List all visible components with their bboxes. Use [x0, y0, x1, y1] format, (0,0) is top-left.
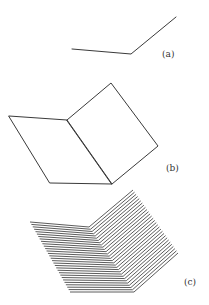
- hatch-line-right: [111, 220, 155, 258]
- hatch-line-right: [106, 214, 150, 252]
- hatch-line-right: [105, 212, 149, 250]
- hatch-line-right: [134, 253, 178, 292]
- hatch-line-left: [37, 234, 97, 238]
- panel-a-label: (a): [162, 49, 174, 59]
- hatch-line-left: [33, 227, 92, 232]
- hatch-line-left: [63, 280, 126, 281]
- hatch-line-left: [52, 261, 114, 263]
- panel-c-right-face-hatching: [89, 190, 178, 292]
- hatch-line-left: [66, 285, 129, 286]
- hatch-line-right: [122, 236, 166, 274]
- hatch-line-right: [132, 251, 176, 290]
- hatch-line-right: [100, 205, 144, 242]
- hatch-line-right: [103, 210, 147, 248]
- panel-b: (b): [9, 83, 179, 184]
- hatch-line-right: [117, 229, 161, 267]
- figure-canvas: (a) (b) (c): [0, 0, 209, 305]
- hatch-line-left: [53, 263, 115, 265]
- hatch-line-left: [34, 229, 94, 233]
- hatch-line-right: [101, 207, 145, 245]
- hatch-line-right: [128, 244, 172, 283]
- hatch-line-right: [92, 194, 136, 231]
- panel-b-right-face: [67, 83, 158, 184]
- hatch-line-left: [58, 270, 120, 272]
- hatch-line-right: [125, 240, 169, 279]
- hatch-line-left: [30, 222, 89, 227]
- hatch-line-right: [129, 246, 173, 285]
- hatch-line-right: [126, 242, 170, 281]
- hatch-line-left: [64, 282, 127, 283]
- hatch-line-right: [123, 238, 167, 277]
- hatch-line-right: [91, 192, 135, 229]
- hatch-line-left: [51, 258, 113, 260]
- hatch-line-right: [108, 216, 152, 254]
- panel-b-label: (b): [166, 163, 179, 173]
- panel-b-left-face: [9, 116, 112, 184]
- hatch-line-left: [36, 232, 96, 236]
- hatch-line-right: [115, 227, 159, 265]
- hatch-line-right: [95, 199, 139, 236]
- hatch-line-right: [94, 197, 138, 234]
- hatch-line-right: [98, 203, 142, 240]
- hatch-line-left: [62, 278, 125, 279]
- hatch-line-right: [120, 233, 164, 271]
- hatch-line-left: [55, 265, 117, 267]
- hatch-line-left: [56, 268, 118, 270]
- hatch-line-left: [38, 236, 98, 240]
- hatch-line-right: [131, 249, 175, 288]
- hatch-line-left: [59, 273, 122, 274]
- panel-c-label: (c): [184, 277, 196, 287]
- hatch-line-right: [89, 190, 133, 227]
- hatch-line-right: [112, 223, 156, 261]
- panel-a: (a): [72, 17, 176, 59]
- hatch-line-left: [60, 275, 123, 276]
- hatch-line-right: [114, 225, 158, 263]
- hatch-line-right: [97, 201, 141, 238]
- panel-c-left-face-hatching: [30, 222, 134, 292]
- panel-a-bent-line: [72, 17, 176, 54]
- hatch-line-right: [109, 218, 153, 256]
- hatch-line-right: [118, 231, 162, 269]
- panel-c: (c): [30, 190, 196, 292]
